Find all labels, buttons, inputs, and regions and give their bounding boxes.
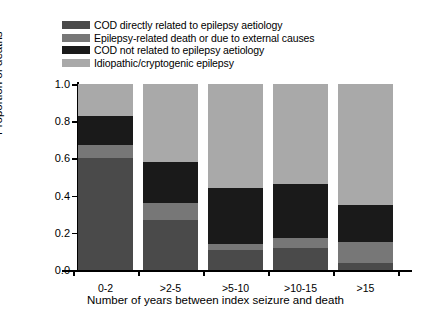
bar-segment [208, 250, 263, 270]
legend-item: Idiopathic/cryptogenic epilepsy [62, 57, 362, 70]
x-axis-category-label: >5-10 [222, 282, 249, 294]
bar-segment [143, 84, 198, 162]
x-axis-category-label: >15 [357, 282, 375, 294]
x-axis-category-label: 0-2 [98, 282, 113, 294]
y-axis-title: Proportion of deaths [0, 31, 4, 135]
bar-stack [78, 84, 133, 270]
bar-segment [78, 84, 133, 116]
legend-swatch-icon [62, 21, 90, 29]
x-axis-category-label: >10-15 [284, 282, 317, 294]
bar-segment [78, 145, 133, 158]
y-axis-tick-label: 0.6 [55, 153, 70, 164]
x-axis-line [62, 270, 412, 272]
bar-segment [273, 184, 328, 238]
bar-segment [78, 158, 133, 270]
legend-item-label: Epilepsy-related death or due to externa… [94, 32, 315, 45]
legend-swatch-icon [62, 59, 90, 67]
y-axis-tick-label: 0.2 [55, 227, 70, 238]
bar-segment [338, 242, 393, 262]
legend-item: Epilepsy-related death or due to externa… [62, 32, 362, 45]
bar-stack [208, 84, 263, 270]
y-axis-tick-label: 0.8 [55, 116, 70, 127]
bar-segment [143, 162, 198, 203]
y-axis-tick-label: 1.0 [55, 79, 70, 90]
bar-segment [338, 205, 393, 242]
bar-segment [273, 84, 328, 184]
legend-item: COD directly related to epilepsy aetiolo… [62, 19, 362, 32]
legend-item: COD not related to epilepsy aetiology [62, 44, 362, 57]
bar-segment [208, 84, 263, 188]
bar-segment [273, 248, 328, 270]
bar-segment [338, 263, 393, 270]
bar-segment [208, 244, 263, 250]
bar-stack [338, 84, 393, 270]
stacked-bar-chart-figure: COD directly related to epilepsy aetiolo… [0, 0, 431, 313]
bar-segment [143, 220, 198, 270]
legend-swatch-icon [62, 46, 90, 54]
chart-legend: COD directly related to epilepsy aetiolo… [62, 19, 362, 69]
y-axis-tick-label: 0.4 [55, 190, 70, 201]
bar-segment [273, 238, 328, 247]
legend-item-label: COD directly related to epilepsy aetiolo… [94, 19, 282, 32]
bar-segment [78, 116, 133, 146]
legend-item-label: Idiopathic/cryptogenic epilepsy [94, 57, 234, 70]
legend-item-label: COD not related to epilepsy aetiology [94, 44, 264, 57]
bar-stack [273, 84, 328, 270]
x-axis-category-label: >2-5 [160, 282, 181, 294]
plot-area: 0.00.20.40.60.81.00-2>2-5>5-10>10-15>15 [78, 84, 408, 270]
bar-segment [208, 188, 263, 244]
legend-swatch-icon [62, 34, 90, 42]
bar-stack [143, 84, 198, 270]
bar-segment [143, 203, 198, 220]
bar-segment [338, 84, 393, 205]
x-axis-title: Number of years between index seizure an… [0, 294, 431, 306]
